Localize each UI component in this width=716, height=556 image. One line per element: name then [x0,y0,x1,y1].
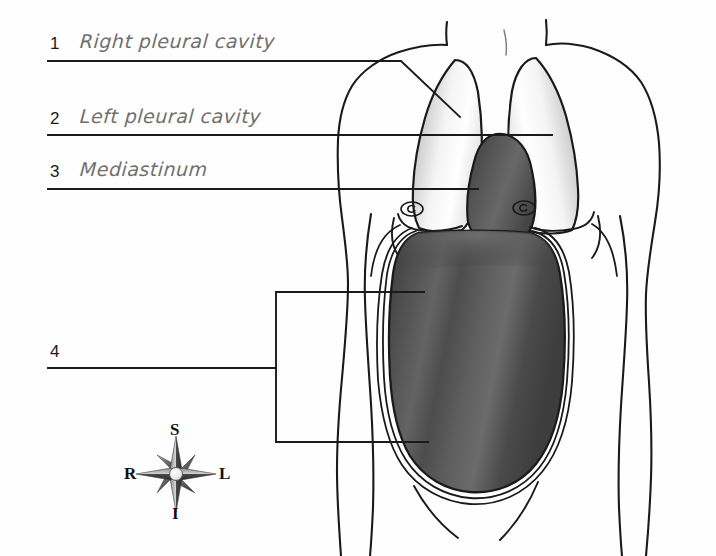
anatomy-artboard: 1 Right pleural cavity 2 Left pleural ca… [0,0,716,556]
compass-hub [170,468,183,481]
label-text-left-pleural-cavity: Left pleural cavity [79,107,261,126]
label-number-4: 4 [50,343,59,360]
compass-label-superior: S [170,421,179,438]
label-number-3: 3 [50,163,59,180]
label-number-2: 2 [50,110,59,127]
diagram-page: 1 Right pleural cavity 2 Left pleural ca… [0,0,716,556]
label-text-right-pleural-cavity: Right pleural cavity [79,32,276,51]
compass-label-left: L [219,465,230,482]
compass-label-inferior: I [172,505,179,522]
compass-rose-graphic [0,0,716,556]
label-text-mediastinum: Mediastinum [79,160,208,179]
compass-label-right: R [124,465,136,482]
label-number-1: 1 [50,35,59,52]
